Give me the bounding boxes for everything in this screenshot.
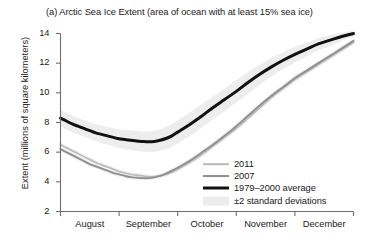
y-tick-label: 12 xyxy=(28,57,50,67)
y-tick-label: 14 xyxy=(28,28,50,38)
y-tick-label: 8 xyxy=(28,117,50,127)
y-tick-label: 2 xyxy=(28,206,50,216)
legend-swatch-patch xyxy=(203,196,229,206)
legend-item: 1979–2000 average xyxy=(203,182,316,194)
legend-item: ±2 standard deviations xyxy=(203,195,326,207)
figure-container: (a) Arctic Sea Ice Extent (area of ocean… xyxy=(0,0,368,246)
y-tick-label: 10 xyxy=(28,87,50,97)
y-tick-label: 4 xyxy=(28,176,50,186)
y-tick-label: 6 xyxy=(28,146,50,156)
legend-item: 2007 xyxy=(203,170,254,182)
x-tick-label-december: December xyxy=(279,219,368,229)
legend-label: 2011 xyxy=(234,159,254,169)
legend-swatch-line xyxy=(203,183,229,193)
legend-item: 2011 xyxy=(203,158,254,170)
legend-swatch-line xyxy=(203,159,229,169)
legend: 201120071979–2000 average±2 standard dev… xyxy=(203,158,353,210)
legend-label: 1979–2000 average xyxy=(234,183,316,193)
legend-label: 2007 xyxy=(234,171,254,181)
legend-label: ±2 standard deviations xyxy=(234,196,326,206)
legend-swatch-line xyxy=(203,171,229,181)
